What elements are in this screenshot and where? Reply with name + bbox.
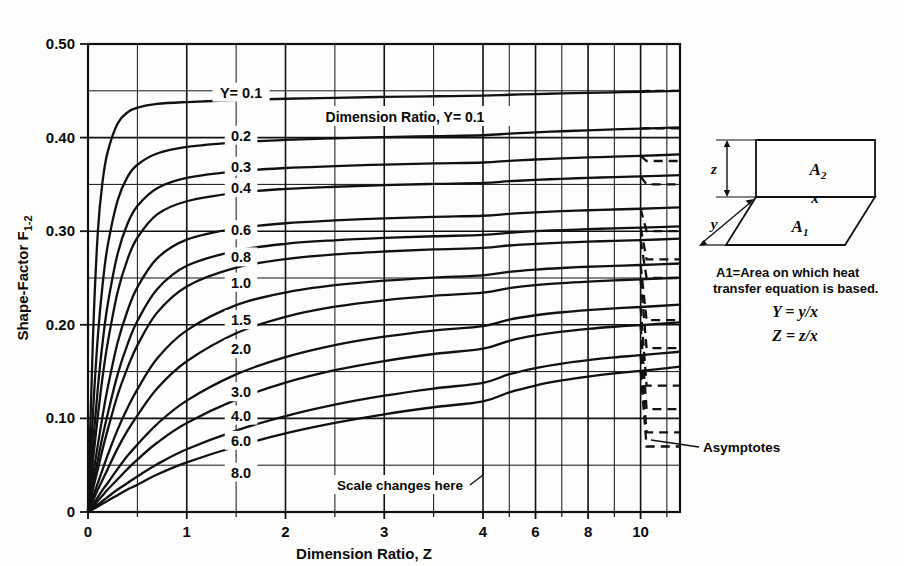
figure-page: 01234681000.100.200.300.400.50Dimension … xyxy=(0,0,904,566)
shape-factor-chart: 01234681000.100.200.300.400.50Dimension … xyxy=(0,0,904,566)
y-axis-title-main: Shape-Factor F xyxy=(14,231,31,340)
curve-label: 1.5 xyxy=(231,312,251,328)
z-dimension-label: z xyxy=(710,161,717,177)
area-note-line-2: transfer equation is based. xyxy=(713,281,878,296)
y-dimension-label: y xyxy=(709,216,718,232)
y-axis-tick-label: 0.50 xyxy=(46,35,75,52)
curve-label: Y= 0.1 xyxy=(220,85,262,101)
x-axis-tick-label: 10 xyxy=(632,523,649,540)
curve-label: 0.4 xyxy=(231,180,251,196)
curve-label: 0.2 xyxy=(231,128,251,144)
y-axis-tick-label: 0.30 xyxy=(46,222,75,239)
curve-label: 2.0 xyxy=(231,341,251,357)
curve-label: 8.0 xyxy=(231,465,251,481)
area-note-line-1: A1=Area on which heat xyxy=(716,265,860,280)
y-axis-title-subscript: 1-2 xyxy=(22,215,34,231)
x-axis-tick-label: 4 xyxy=(479,523,488,540)
x-axis-tick-label: 6 xyxy=(531,523,539,540)
curve-label: 0.6 xyxy=(231,222,251,238)
x-axis-tick-label: 2 xyxy=(281,523,289,540)
x-dimension-label: x xyxy=(810,190,819,206)
y-axis-tick-label: 0.20 xyxy=(46,316,75,333)
curve-label: 0.3 xyxy=(231,159,251,175)
equation-y-definition: Y = y/x xyxy=(772,303,818,321)
asymptote-y-0.1 xyxy=(641,91,680,92)
x-axis-tick-label: 0 xyxy=(84,523,92,540)
dimension-ratio-note: Dimension Ratio, Y= 0.1 xyxy=(326,109,485,125)
scale-change-note: Scale changes here xyxy=(337,478,464,493)
equation-z-definition: Z = z/x xyxy=(771,327,818,344)
curve-label: 1.0 xyxy=(231,275,251,291)
curve-label: 6.0 xyxy=(231,433,251,449)
curve-label: 3.0 xyxy=(231,384,251,400)
y-axis-tick-label: 0.40 xyxy=(46,129,75,146)
curve-label: 0.8 xyxy=(231,249,251,265)
curve-label: 4.0 xyxy=(231,408,251,424)
x-axis-tick-label: 8 xyxy=(584,523,592,540)
x-axis-title: Dimension Ratio, Z xyxy=(296,545,432,562)
x-axis-tick-label: 1 xyxy=(183,523,191,540)
asymptotes-note: Asymptotes xyxy=(703,440,780,455)
y-axis-tick-label: 0 xyxy=(67,503,75,520)
x-axis-tick-label: 3 xyxy=(380,523,388,540)
y-axis-tick-label: 0.10 xyxy=(46,409,75,426)
